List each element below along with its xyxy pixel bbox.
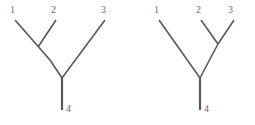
left-tree <box>15 20 105 110</box>
tree-b-leaf-label-2: 2 <box>196 5 201 15</box>
tree-b-leaf-label-3: 3 <box>228 5 233 15</box>
tree-a-leaf-label-4: 4 <box>66 104 71 114</box>
leaf-1-branch <box>159 20 200 78</box>
tree-b-leaf-label-1: 1 <box>154 5 159 15</box>
internal-23-branch <box>200 44 218 78</box>
tree-b-leaf-label-4: 4 <box>204 104 209 114</box>
leaf-3-branch <box>62 20 105 78</box>
phylogenetic-tree-figure: 12341234 <box>0 0 255 125</box>
leaf-2-branch <box>38 20 56 47</box>
leaf-3-branch <box>218 20 234 44</box>
right-tree <box>159 20 234 110</box>
tree-a-leaf-label-1: 1 <box>10 5 15 15</box>
tree-a-leaf-label-3: 3 <box>101 5 106 15</box>
tree-a-leaf-label-2: 2 <box>51 5 56 15</box>
leaf-1-branch <box>15 20 50 60</box>
tree-drawing-canvas <box>0 0 255 125</box>
internal-12-branch <box>50 60 62 78</box>
leaf-2-branch <box>201 20 218 44</box>
